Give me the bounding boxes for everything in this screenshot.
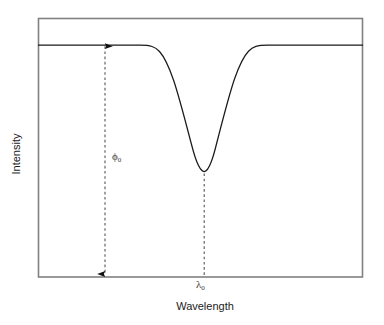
figure-container: Intensity Wavelength ϕ0 λ0: [0, 0, 384, 325]
resonance-wavelength-symbol-label: λ0: [196, 278, 205, 290]
phi-glyph: ϕ: [112, 150, 118, 162]
lambda-subscript: 0: [201, 284, 205, 292]
x-axis-label: Wavelength: [150, 300, 260, 312]
y-axis-label: Intensity: [10, 122, 22, 186]
dip-depth-symbol-label: ϕ0: [112, 150, 121, 162]
phi-subscript: 0: [118, 156, 122, 164]
plot-frame: [39, 19, 363, 278]
spectral-plot-svg: [0, 0, 384, 325]
